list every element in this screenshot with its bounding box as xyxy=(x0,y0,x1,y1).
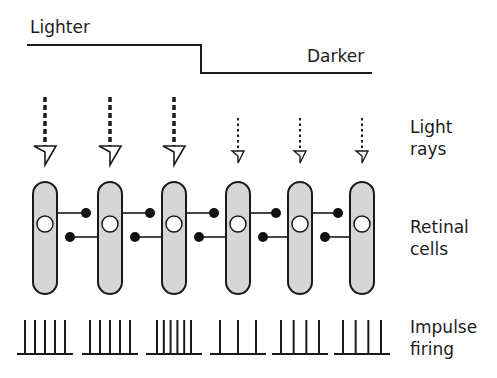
cell-body xyxy=(98,182,122,294)
cell-body xyxy=(33,182,57,294)
cell-nucleus xyxy=(166,216,182,232)
light-ray-arrow xyxy=(99,97,121,165)
impulse-train xyxy=(82,320,138,354)
arrowhead-icon xyxy=(232,151,244,163)
synapse-dot xyxy=(209,208,219,218)
retinal-cell xyxy=(288,182,312,294)
inhibitory-connection xyxy=(186,208,226,242)
cell-body xyxy=(288,182,312,294)
lighter-label: Lighter xyxy=(30,16,90,38)
light-ray-arrow xyxy=(163,97,185,165)
cell-nucleus xyxy=(354,216,370,232)
retinal-cells-label: Retinal cells xyxy=(410,216,469,260)
impulse-firing-label-line2: firing xyxy=(410,338,477,360)
retinal-cell xyxy=(350,182,374,294)
synapse-dot xyxy=(258,232,268,242)
arrowhead-icon xyxy=(99,146,121,165)
light-rays-label: Light rays xyxy=(410,116,452,160)
retinal-cell xyxy=(226,182,250,294)
synapse-dot xyxy=(65,232,75,242)
impulse-train xyxy=(334,320,390,354)
light-ray-arrow xyxy=(232,118,244,163)
darker-label: Darker xyxy=(307,45,364,67)
synapse-dot xyxy=(81,208,91,218)
impulse-train xyxy=(17,320,73,354)
retinal-cell xyxy=(98,182,122,294)
synapse-dot xyxy=(194,232,204,242)
impulse-train xyxy=(146,320,202,354)
synapse-dot xyxy=(145,208,155,218)
retinal-cells-label-line1: Retinal xyxy=(410,216,469,238)
inhibitory-connection xyxy=(122,208,162,242)
light-rays-label-line1: Light xyxy=(410,116,452,138)
synapse-dot xyxy=(333,208,343,218)
impulse-train xyxy=(210,320,266,354)
retinal-cell xyxy=(162,182,186,294)
retinal-cells-label-line2: cells xyxy=(410,238,469,260)
cell-nucleus xyxy=(230,216,246,232)
light-ray-arrow xyxy=(294,118,306,163)
synapse-dot xyxy=(130,232,140,242)
inhibitory-connection xyxy=(250,208,288,242)
cell-body xyxy=(226,182,250,294)
cell-nucleus xyxy=(292,216,308,232)
cell-nucleus xyxy=(37,216,53,232)
impulse-train xyxy=(272,320,328,354)
impulse-firing-label: Impulse firing xyxy=(410,316,477,360)
synapse-dot xyxy=(271,208,281,218)
inhibitory-connection xyxy=(57,208,98,242)
retinal-cell xyxy=(33,182,57,294)
cell-nucleus xyxy=(102,216,118,232)
light-rays-label-line2: rays xyxy=(410,138,452,160)
arrowhead-icon xyxy=(34,146,56,165)
arrowhead-icon xyxy=(356,151,368,163)
impulse-firing-label-line1: Impulse xyxy=(410,316,477,338)
impulse-trains xyxy=(17,320,390,354)
light-ray-arrow xyxy=(34,97,56,165)
arrowhead-icon xyxy=(163,146,185,165)
cell-body xyxy=(350,182,374,294)
synapse-dot xyxy=(320,232,330,242)
cell-body xyxy=(162,182,186,294)
light-ray-arrows xyxy=(34,97,368,165)
inhibitory-connection xyxy=(312,208,350,242)
arrowhead-icon xyxy=(294,151,306,163)
light-ray-arrow xyxy=(356,118,368,163)
